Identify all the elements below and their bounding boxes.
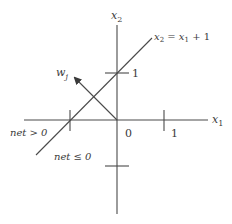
y-axis-label: x2 xyxy=(111,9,122,24)
weight-vector-label: wj xyxy=(56,66,68,81)
weight-vector-arrow xyxy=(75,78,117,120)
boundary-equation-label: x2 = x1 + 1 xyxy=(154,31,210,44)
x-tick-one-label: 1 xyxy=(171,127,178,140)
region-nonpositive-label: net ≤ 0 xyxy=(54,151,92,162)
origin-label: 0 xyxy=(125,127,132,140)
x-axis-label: x1 xyxy=(212,113,223,128)
diagram-canvas: x2 x1 0 1 1 x2 = x1 + 1 wj net > 0 net ≤… xyxy=(0,0,232,224)
region-positive-label: net > 0 xyxy=(10,127,48,138)
y-tick-one-label: 1 xyxy=(132,67,139,80)
